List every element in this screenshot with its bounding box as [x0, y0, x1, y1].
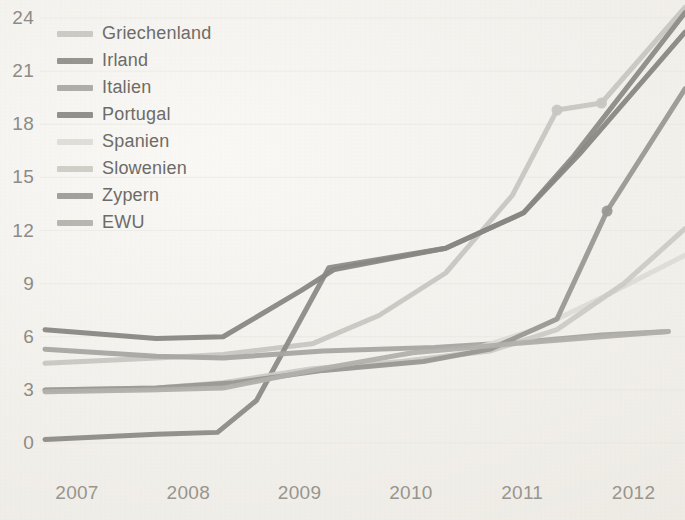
y-tick-12: 12 — [0, 221, 34, 240]
y-tick-3: 3 — [0, 380, 34, 399]
legend-item-label: Italien — [102, 77, 151, 98]
legend-item-label: EWU — [102, 212, 145, 233]
chart-legend: GriechenlandIrlandItalienPortugalSpanien… — [57, 20, 272, 236]
legend-swatch-icon — [57, 112, 93, 118]
y-tick-6: 6 — [0, 327, 34, 346]
y-tick-0: 0 — [0, 433, 34, 452]
legend-item-irland[interactable]: Irland — [57, 47, 272, 74]
x-tick-2008: 2008 — [148, 483, 228, 502]
x-tick-2010: 2010 — [371, 483, 451, 502]
legend-item-label: Irland — [102, 50, 148, 71]
x-tick-2012: 2012 — [594, 483, 674, 502]
y-tick-15: 15 — [0, 167, 34, 186]
legend-item-label: Spanien — [102, 131, 169, 152]
legend-item-spanien[interactable]: Spanien — [57, 128, 272, 155]
legend-swatch-icon — [57, 31, 93, 37]
legend-item-label: Portugal — [102, 104, 171, 125]
y-tick-21: 21 — [0, 61, 34, 80]
legend-swatch-icon — [57, 85, 93, 91]
legend-item-label: Slowenien — [102, 158, 187, 179]
legend-item-zypern[interactable]: Zypern — [57, 182, 272, 209]
legend-item-italien[interactable]: Italien — [57, 74, 272, 101]
x-tick-2009: 2009 — [260, 483, 340, 502]
legend-item-portugal[interactable]: Portugal — [57, 101, 272, 128]
y-tick-9: 9 — [0, 274, 34, 293]
legend-swatch-icon — [57, 58, 93, 64]
legend-item-griechenland[interactable]: Griechenland — [57, 20, 272, 47]
legend-item-slowenien[interactable]: Slowenien — [57, 155, 272, 182]
y-tick-18: 18 — [0, 114, 34, 133]
legend-item-ewu[interactable]: EWU — [57, 209, 272, 236]
x-tick-2011: 2011 — [482, 483, 562, 502]
legend-swatch-icon — [57, 166, 93, 172]
legend-swatch-icon — [57, 139, 93, 145]
line-chart: 03691215182124 200720082009201020112012 … — [0, 0, 685, 520]
y-tick-24: 24 — [0, 8, 34, 27]
x-tick-2007: 2007 — [37, 483, 117, 502]
legend-item-label: Griechenland — [102, 23, 211, 44]
legend-swatch-icon — [57, 193, 93, 199]
legend-item-label: Zypern — [102, 185, 159, 206]
legend-swatch-icon — [57, 220, 93, 226]
